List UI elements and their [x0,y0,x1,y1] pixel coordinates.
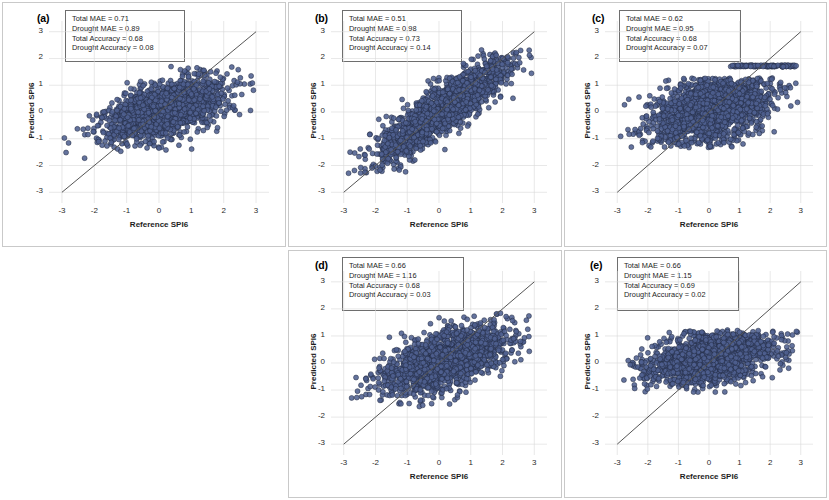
panel-inner-c: (c)Total MAE = 0.62Drought MAE = 0.95Tot… [565,3,826,246]
x-tick-label: -2 [638,206,658,215]
x-tick-label: 3 [524,206,544,215]
x-tick-label: 1 [461,206,481,215]
x-tick-label: -2 [365,458,385,467]
x-tick-label: 3 [791,206,811,215]
x-tick-label: -2 [84,206,104,215]
panel-b: (b)Total MAE = 0.51Drought MAE = 0.98Tot… [288,2,562,247]
plot-area-e [605,271,813,455]
x-tick-label: 1 [461,458,481,467]
y-tick-label: -3 [583,186,599,195]
panel-label-a: (a) [37,12,49,24]
panel-inner-e: (e)Total MAE = 0.66Drought MAE = 1.15Tot… [565,251,826,497]
x-tick-label: -3 [607,206,627,215]
panel-inner-b: (b)Total MAE = 0.51Drought MAE = 0.98Tot… [289,3,561,246]
scatter-canvas-d [331,271,547,455]
y-tick-label: 3 [309,26,325,35]
y-axis-label: Predicted SPI6 [584,288,593,435]
x-tick-label: 0 [429,206,449,215]
x-tick-label: -1 [397,458,417,467]
panel-label-d: (d) [315,259,328,271]
x-tick-label: -1 [668,206,688,215]
panel-e: (e)Total MAE = 0.66Drought MAE = 1.15Tot… [564,250,827,498]
x-tick-label: -2 [365,206,385,215]
panel-label-e: (e) [590,259,602,271]
stats-line: Total MAE = 0.66 [349,261,458,271]
panel-inner-a: (a)Total MAE = 0.71Drought MAE = 0.89Tot… [3,3,285,246]
y-tick-label: 3 [309,276,325,285]
plot-area-c [605,21,813,203]
panel-d: (d)Total MAE = 0.66Drought MAE = 1.16Tot… [288,250,562,498]
x-tick-label: 0 [699,206,719,215]
x-tick-label: 2 [493,458,513,467]
x-axis-label: Reference SPI6 [49,220,269,229]
plot-area-a [49,21,269,203]
scatter-canvas-e [605,271,813,455]
x-tick-label: 3 [246,206,266,215]
y-tick-label: 3 [583,26,599,35]
plot-area-d [331,271,547,455]
x-tick-label: 2 [493,206,513,215]
x-tick-label: -3 [334,458,354,467]
y-tick-label: -3 [583,438,599,447]
x-tick-label: -3 [334,206,354,215]
x-tick-label: 1 [730,458,750,467]
panel-c: (c)Total MAE = 0.62Drought MAE = 0.95Tot… [564,2,827,247]
x-tick-label: -3 [52,206,72,215]
x-tick-label: 0 [429,458,449,467]
scatter-canvas-b [331,21,547,203]
figure-scatter-panels: (a)Total MAE = 0.71Drought MAE = 0.89Tot… [0,0,829,500]
panel-label-b: (b) [315,12,328,24]
panel-label-c: (c) [592,12,604,24]
x-tick-label: 0 [699,458,719,467]
y-tick-label: -3 [309,186,325,195]
x-tick-label: 2 [760,206,780,215]
plot-area-b [331,21,547,203]
x-axis-label: Reference SPI6 [331,472,547,481]
x-tick-label: 2 [214,206,234,215]
x-tick-label: 0 [149,206,169,215]
x-tick-label: -3 [607,458,627,467]
y-tick-label: 3 [583,276,599,285]
x-axis-label: Reference SPI6 [605,220,813,229]
y-axis-label: Predicted SPI6 [584,38,593,184]
y-axis-label: Predicted SPI6 [310,38,319,184]
x-tick-label: 3 [791,458,811,467]
y-axis-label: Predicted SPI6 [310,288,319,435]
x-tick-label: 1 [730,206,750,215]
x-axis-label: Reference SPI6 [331,220,547,229]
y-tick-label: -3 [27,186,43,195]
stats-line: Total MAE = 0.66 [624,261,733,271]
data-points [349,311,532,409]
scatter-canvas-c [605,21,813,203]
x-tick-label: 2 [760,458,780,467]
x-axis-label: Reference SPI6 [605,472,813,481]
panel-inner-d: (d)Total MAE = 0.66Drought MAE = 1.16Tot… [289,251,561,497]
x-tick-label: -1 [668,458,688,467]
y-tick-label: -3 [309,438,325,447]
x-tick-label: -1 [117,206,137,215]
x-tick-label: -1 [397,206,417,215]
y-tick-label: 3 [27,26,43,35]
y-axis-label: Predicted SPI6 [28,38,37,184]
panel-a: (a)Total MAE = 0.71Drought MAE = 0.89Tot… [2,2,286,247]
scatter-canvas-a [49,21,269,203]
x-tick-label: 1 [181,206,201,215]
x-tick-label: -2 [638,458,658,467]
x-tick-label: 3 [524,458,544,467]
